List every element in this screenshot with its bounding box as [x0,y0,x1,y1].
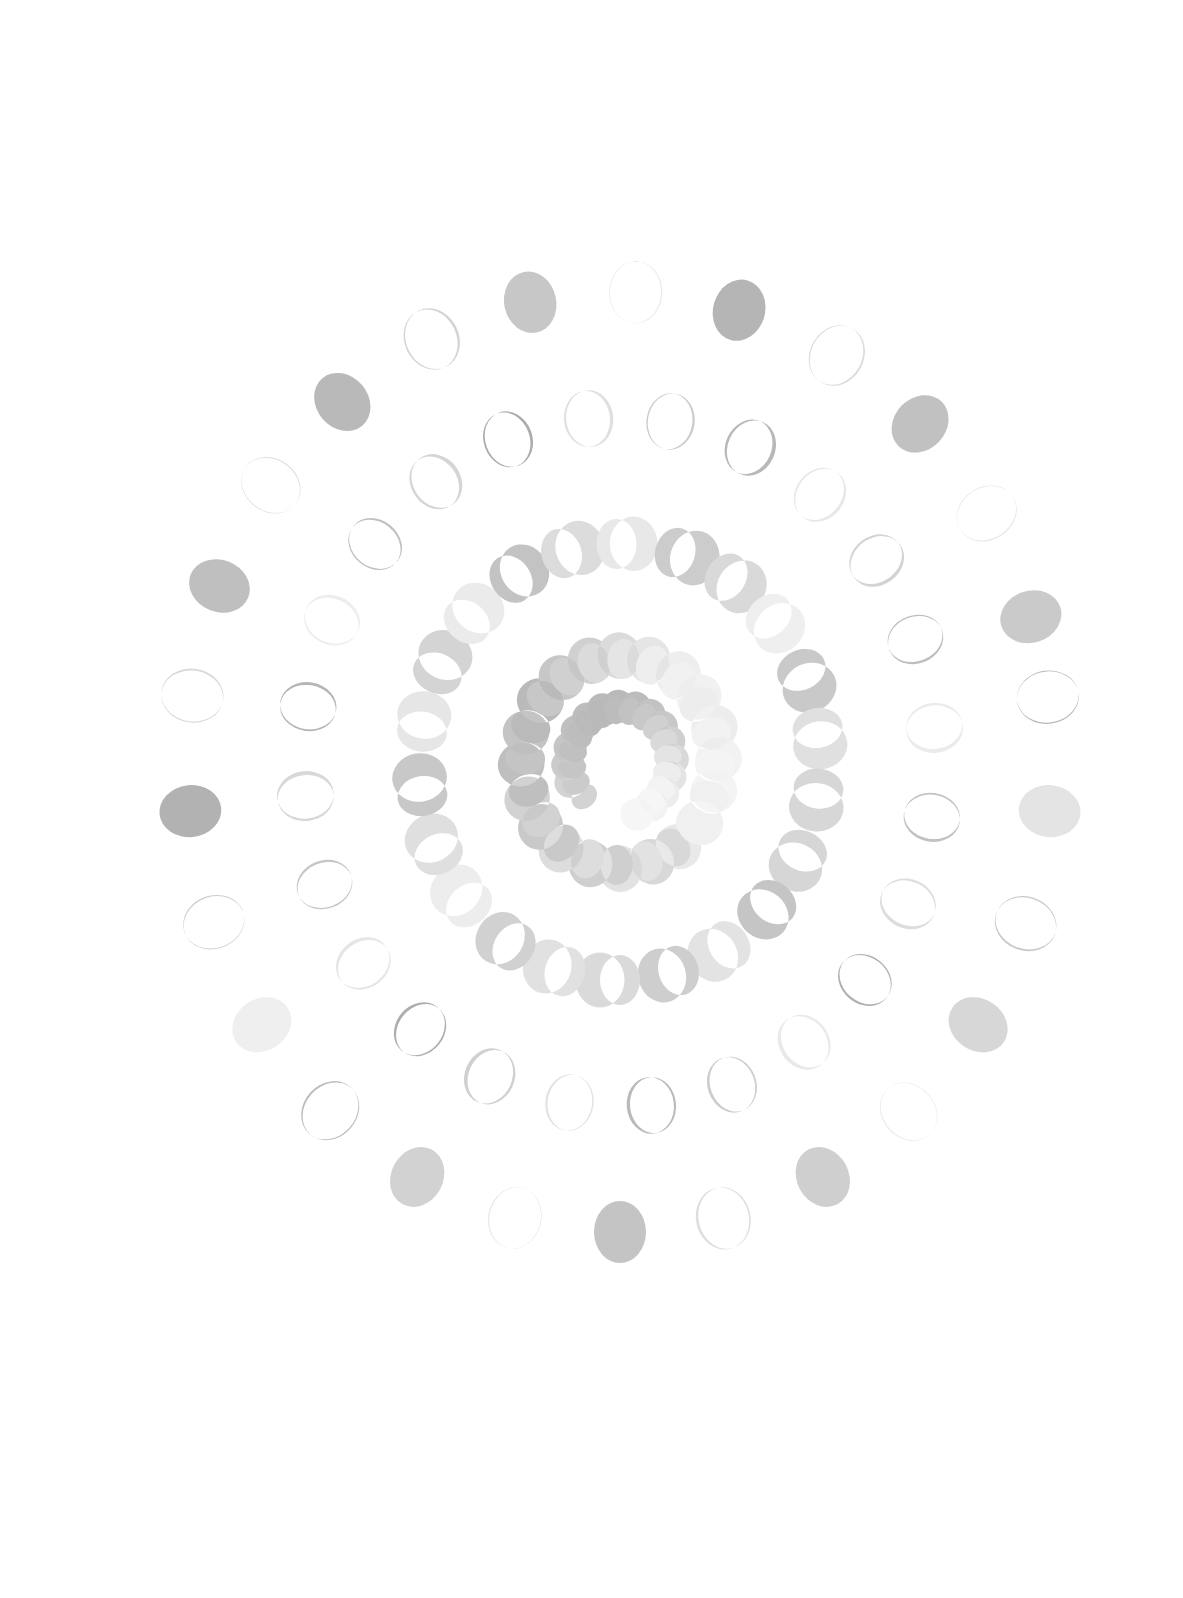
artboard [0,0,1183,1598]
spiral-moon-phase-figure [0,0,1183,1598]
moon-phase-marker [594,1201,646,1263]
